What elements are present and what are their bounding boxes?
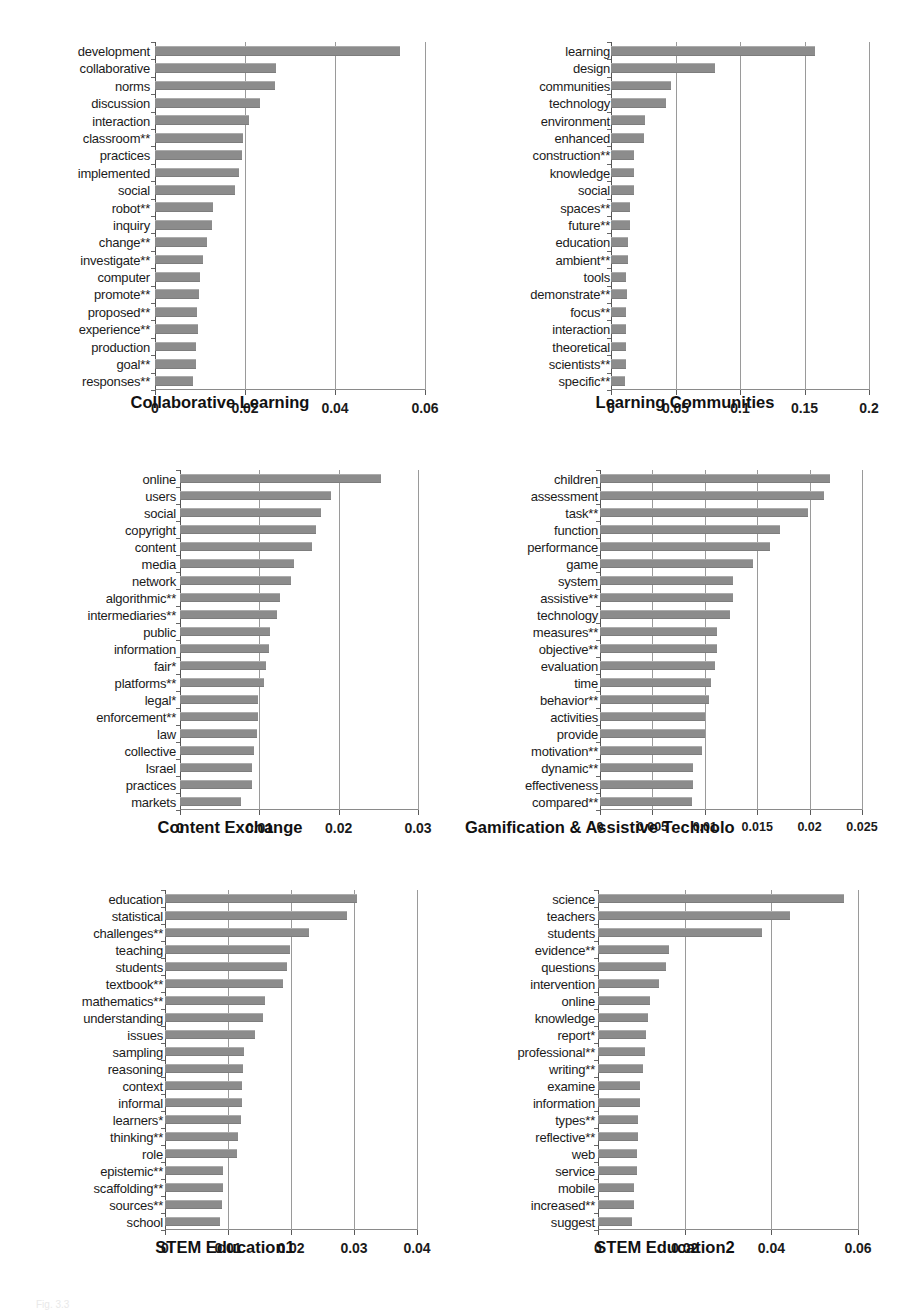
- category-label: responses**: [82, 373, 150, 390]
- category-label: theoretical: [552, 339, 610, 356]
- category-label: teaching: [115, 942, 163, 959]
- bar: [600, 780, 693, 790]
- bar: [600, 729, 705, 739]
- bar: [180, 712, 258, 722]
- category-axis-labels-collaborative-learning: developmentcollaborativenormsdiscussioni…: [10, 43, 150, 389]
- category-label: goal**: [117, 356, 151, 373]
- bar: [155, 63, 276, 73]
- category-label: demonstrate**: [530, 286, 610, 303]
- bar: [598, 1064, 643, 1074]
- category-label: development: [78, 43, 150, 60]
- bar-row: [165, 1013, 417, 1023]
- bar-row: [155, 342, 425, 352]
- bar-row: [165, 1030, 417, 1040]
- bar: [598, 1047, 645, 1057]
- bar-row: [611, 202, 869, 212]
- category-label: Israel: [145, 760, 176, 777]
- bar: [598, 1166, 637, 1176]
- chart-panel-gamification-assistive-technology: childrenassessmenttask**functionperforma…: [455, 458, 902, 870]
- category-label: practices: [100, 147, 150, 164]
- category-label: questions: [541, 959, 595, 976]
- category-label: time: [574, 675, 598, 692]
- category-label: web: [572, 1146, 595, 1163]
- bar-row: [165, 1047, 417, 1057]
- bar-row: [180, 729, 418, 739]
- bar: [611, 46, 815, 56]
- gridline: [418, 470, 419, 810]
- bar: [600, 797, 692, 807]
- panel-title-content-exchange: Content Exchange: [30, 818, 430, 837]
- category-axis-labels-gamification-assistive-technology: childrenassessmenttask**functionperforma…: [455, 471, 598, 809]
- bar: [155, 98, 260, 108]
- bar: [165, 1081, 242, 1091]
- bar-row: [165, 1166, 417, 1176]
- bar-row: [165, 979, 417, 989]
- bar: [180, 763, 252, 773]
- category-label: intervention: [530, 976, 595, 993]
- bar-row: [155, 63, 425, 73]
- category-label: examine: [547, 1078, 595, 1095]
- bar: [611, 202, 630, 212]
- bar-row: [611, 63, 869, 73]
- bar: [611, 289, 627, 299]
- bar-row: [600, 610, 862, 620]
- bar: [165, 1115, 241, 1125]
- bar: [180, 593, 280, 603]
- bar: [165, 1013, 263, 1023]
- bar: [611, 376, 625, 386]
- category-label: social: [118, 182, 150, 199]
- bar: [600, 763, 693, 773]
- category-label: norms: [115, 78, 150, 95]
- category-label: specific**: [559, 373, 610, 390]
- category-label: service: [555, 1163, 595, 1180]
- bar-row: [598, 1030, 858, 1040]
- bar: [600, 746, 702, 756]
- bar-row: [598, 1217, 858, 1227]
- bar-row: [165, 894, 417, 904]
- bar: [598, 1081, 640, 1091]
- category-label: sources**: [109, 1197, 163, 1214]
- category-label: role: [142, 1146, 163, 1163]
- plot-area-collaborative-learning: [155, 42, 425, 390]
- bar-row: [598, 1115, 858, 1125]
- bar: [611, 168, 634, 178]
- bar: [155, 81, 275, 91]
- bar-row: [155, 168, 425, 178]
- x-axis-tick: [862, 810, 863, 815]
- category-label: enhanced: [554, 130, 610, 147]
- category-label: students: [547, 925, 595, 942]
- bar-row: [600, 525, 862, 535]
- bar: [165, 1183, 223, 1193]
- bar-row: [598, 1132, 858, 1142]
- bar: [600, 593, 733, 603]
- bar: [598, 962, 666, 972]
- bar: [598, 1013, 648, 1023]
- bar-row: [180, 508, 418, 518]
- bar: [598, 1200, 634, 1210]
- bar: [155, 185, 235, 195]
- category-label: knowledge: [535, 1010, 595, 1027]
- category-label: social: [578, 182, 610, 199]
- bar: [165, 911, 347, 921]
- bar: [600, 559, 753, 569]
- bar-row: [165, 1217, 417, 1227]
- bar-row: [598, 1047, 858, 1057]
- bar-row: [598, 928, 858, 938]
- bar-row: [180, 627, 418, 637]
- bar: [600, 712, 705, 722]
- category-label: online: [562, 993, 596, 1010]
- plot-area-stem-education-2: [598, 890, 858, 1230]
- bar: [180, 610, 277, 620]
- bar-series: [180, 470, 418, 810]
- category-label: media: [142, 556, 176, 573]
- category-label: provide: [557, 726, 598, 743]
- category-label: scaffolding**: [94, 1180, 163, 1197]
- category-label: learning: [565, 43, 610, 60]
- bar-row: [155, 237, 425, 247]
- bar: [600, 491, 824, 501]
- x-axis-tick: [339, 810, 340, 815]
- category-label: content: [135, 539, 176, 556]
- bar-row: [600, 593, 862, 603]
- bar-row: [598, 945, 858, 955]
- bar-row: [611, 115, 869, 125]
